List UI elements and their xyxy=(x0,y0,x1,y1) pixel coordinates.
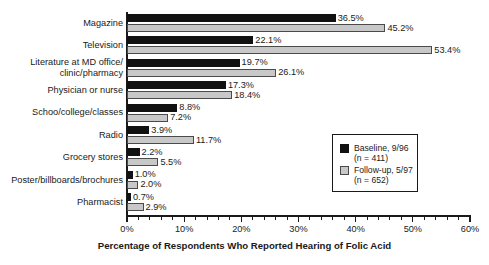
bar-value-label: 17.3% xyxy=(228,81,254,90)
legend-label-baseline: Baseline, 9/96 (n = 411) xyxy=(354,143,408,163)
bar-value-label: 8.8% xyxy=(179,103,200,112)
bar-value-label: 22.1% xyxy=(255,36,281,45)
x-tick-minor xyxy=(161,216,162,220)
x-tick-major xyxy=(126,216,127,222)
x-tick-minor xyxy=(149,216,150,220)
bar-value-label: 3.9% xyxy=(151,126,172,135)
x-tick-minor xyxy=(218,216,219,220)
bar-baseline xyxy=(127,171,133,179)
bar-value-label: 18.4% xyxy=(234,91,260,100)
x-tick-minor xyxy=(367,216,368,220)
x-tick-label: 20% xyxy=(232,224,250,234)
category-label: Poster/billboards/brochures xyxy=(0,175,123,186)
bar-value-label: 1.0% xyxy=(135,170,156,179)
bar-baseline xyxy=(127,148,140,156)
legend-swatch-baseline-icon xyxy=(340,144,349,153)
x-tick-label: 10% xyxy=(175,224,193,234)
legend-entry-baseline: Baseline, 9/96 (n = 411) xyxy=(340,143,408,163)
x-tick-minor xyxy=(207,216,208,220)
bar-followup xyxy=(127,136,194,144)
bar-value-label: 36.5% xyxy=(338,14,364,23)
x-tick-minor xyxy=(378,216,379,220)
bar-value-label: 5.5% xyxy=(160,158,181,167)
chart-category-group: Pharmacist0.7%2.9% xyxy=(0,193,489,211)
bar-chart: Magazine36.5%45.2%Television22.1%53.4%Li… xyxy=(0,0,489,265)
x-tick-label: 30% xyxy=(289,224,307,234)
x-tick-minor xyxy=(252,216,253,220)
x-tick-minor xyxy=(264,216,265,220)
bar-value-label: 26.1% xyxy=(278,68,304,77)
x-tick-minor xyxy=(344,216,345,220)
x-tick-minor xyxy=(309,216,310,220)
bar-baseline xyxy=(127,104,177,112)
legend-swatch-followup-icon xyxy=(340,166,349,175)
bar-baseline xyxy=(127,126,149,134)
bar-baseline xyxy=(127,193,131,201)
bar-value-label: 7.2% xyxy=(170,113,191,122)
x-tick-major xyxy=(469,216,470,222)
chart-category-group: Magazine36.5%45.2% xyxy=(0,14,489,32)
bar-followup xyxy=(127,24,385,32)
x-tick-minor xyxy=(172,216,173,220)
bar-followup xyxy=(127,181,138,189)
category-label: Schoo/college/classes xyxy=(0,107,123,118)
x-tick-label: 40% xyxy=(346,224,364,234)
chart-category-group: Schoo/college/classes8.8%7.2% xyxy=(0,104,489,122)
chart-category-group: Physician or nurse17.3%18.4% xyxy=(0,81,489,99)
x-tick-minor xyxy=(229,216,230,220)
x-axis-title: Percentage of Respondents Who Reported H… xyxy=(0,240,489,251)
category-label: Magazine xyxy=(0,18,123,29)
x-tick-label: 0% xyxy=(120,224,133,234)
x-tick-major xyxy=(298,216,299,222)
x-tick-minor xyxy=(458,216,459,220)
x-tick-major xyxy=(412,216,413,222)
bar-value-label: 0.7% xyxy=(133,193,154,202)
x-tick-minor xyxy=(332,216,333,220)
bar-followup xyxy=(127,69,276,77)
x-tick-minor xyxy=(389,216,390,220)
x-tick-minor xyxy=(138,216,139,220)
bar-baseline xyxy=(127,59,240,67)
bar-value-label: 2.2% xyxy=(142,148,163,157)
bar-followup xyxy=(127,158,158,166)
chart-category-group: Television22.1%53.4% xyxy=(0,36,489,54)
category-label: Grocery stores xyxy=(0,152,123,163)
x-tick-label: 60% xyxy=(461,224,479,234)
bar-followup xyxy=(127,91,232,99)
x-tick-minor xyxy=(287,216,288,220)
category-label: Radio xyxy=(0,130,123,141)
x-tick-major xyxy=(355,216,356,222)
category-label: Literature at MD office/ clinic/pharmacy xyxy=(0,57,123,78)
x-tick-minor xyxy=(424,216,425,220)
bar-followup xyxy=(127,46,432,54)
chart-category-group: Literature at MD office/ clinic/pharmacy… xyxy=(0,59,489,77)
bar-value-label: 53.4% xyxy=(434,46,460,55)
x-tick-minor xyxy=(321,216,322,220)
x-tick-minor xyxy=(435,216,436,220)
bar-baseline xyxy=(127,81,226,89)
bar-value-label: 2.0% xyxy=(140,180,161,189)
bar-value-label: 45.2% xyxy=(387,24,413,33)
x-tick-major xyxy=(184,216,185,222)
legend-label-followup: Follow-up, 5/97 (n = 652) xyxy=(354,165,413,185)
category-label: Television xyxy=(0,40,123,51)
bar-followup xyxy=(127,114,168,122)
bar-value-label: 11.7% xyxy=(196,136,221,145)
bar-baseline xyxy=(127,36,253,44)
x-tick-major xyxy=(241,216,242,222)
bar-followup xyxy=(127,203,144,211)
x-tick-minor xyxy=(275,216,276,220)
x-tick-minor xyxy=(447,216,448,220)
x-tick-minor xyxy=(401,216,402,220)
bar-baseline xyxy=(127,14,336,22)
chart-legend: Baseline, 9/96 (n = 411) Follow-up, 5/97… xyxy=(332,134,418,192)
legend-entry-followup: Follow-up, 5/97 (n = 652) xyxy=(340,165,413,185)
category-label: Pharmacist xyxy=(0,197,123,208)
bar-value-label: 2.9% xyxy=(146,203,167,212)
category-label: Physician or nurse xyxy=(0,85,123,96)
bar-value-label: 19.7% xyxy=(242,58,268,67)
x-tick-minor xyxy=(195,216,196,220)
x-tick-label: 50% xyxy=(404,224,422,234)
